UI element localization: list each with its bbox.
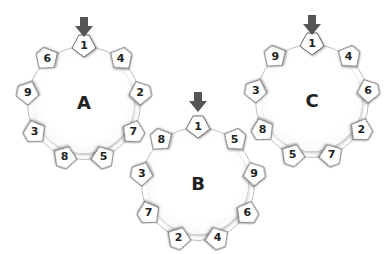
- tile-number: 9: [15, 85, 41, 101]
- number-tile: 5: [280, 143, 306, 167]
- tile-number: 7: [318, 147, 344, 163]
- tile-number: 6: [234, 205, 260, 221]
- tile-number: 5: [280, 147, 306, 163]
- number-tile: 6: [355, 79, 381, 103]
- tile-number: 3: [129, 166, 155, 182]
- tile-number: 1: [71, 38, 97, 54]
- wheel-label: A: [64, 91, 104, 115]
- number-tile: 8: [250, 118, 276, 142]
- number-tile: 2: [166, 226, 192, 250]
- wheel-label: C: [292, 89, 332, 113]
- number-tile: 9: [15, 81, 41, 105]
- number-tile: 7: [120, 120, 146, 144]
- number-tile: 6: [234, 201, 260, 225]
- tile-number: 8: [250, 122, 276, 138]
- tile-number: 4: [336, 49, 362, 65]
- tile-number: 6: [355, 83, 381, 99]
- number-tile: 8: [52, 145, 78, 169]
- number-tile: 1: [185, 115, 211, 139]
- tile-number: 2: [348, 122, 374, 138]
- tile-number: 6: [34, 51, 60, 67]
- number-tile: 4: [204, 226, 230, 250]
- tile-number: 4: [204, 230, 230, 246]
- down-arrow-icon: [189, 92, 207, 112]
- tile-number: 3: [243, 83, 269, 99]
- tile-number: 3: [22, 124, 48, 140]
- number-tile: 4: [336, 45, 362, 69]
- tile-number: 8: [148, 132, 174, 148]
- tile-number: 2: [127, 85, 153, 101]
- number-tile: 3: [129, 162, 155, 186]
- number-tile: 2: [348, 118, 374, 142]
- number-tile: 3: [22, 120, 48, 144]
- number-tile: 9: [262, 45, 288, 69]
- number-tile: 7: [136, 201, 162, 225]
- number-tile: 1: [71, 34, 97, 58]
- down-arrow-icon: [75, 17, 93, 37]
- tile-number: 2: [166, 230, 192, 246]
- tile-number: 8: [52, 149, 78, 165]
- tile-number: 5: [90, 149, 116, 165]
- number-tile: 3: [243, 79, 269, 103]
- tile-number: 7: [136, 205, 162, 221]
- number-tile: 5: [222, 128, 248, 152]
- tile-number: 9: [241, 166, 267, 182]
- tile-number: 1: [185, 119, 211, 135]
- number-tile: 2: [127, 81, 153, 105]
- tile-number: 7: [120, 124, 146, 140]
- number-tile: 4: [108, 47, 134, 71]
- number-tile: 7: [318, 143, 344, 167]
- number-tile: 9: [241, 162, 267, 186]
- tile-number: 1: [299, 36, 325, 52]
- number-tile: 8: [148, 128, 174, 152]
- tile-number: 4: [108, 51, 134, 67]
- number-tile: 1: [299, 32, 325, 56]
- tile-number: 9: [262, 49, 288, 65]
- number-tile: 5: [90, 145, 116, 169]
- wheel-label: B: [178, 172, 218, 196]
- number-tile: 6: [34, 47, 60, 71]
- tile-number: 5: [222, 132, 248, 148]
- down-arrow-icon: [303, 15, 321, 35]
